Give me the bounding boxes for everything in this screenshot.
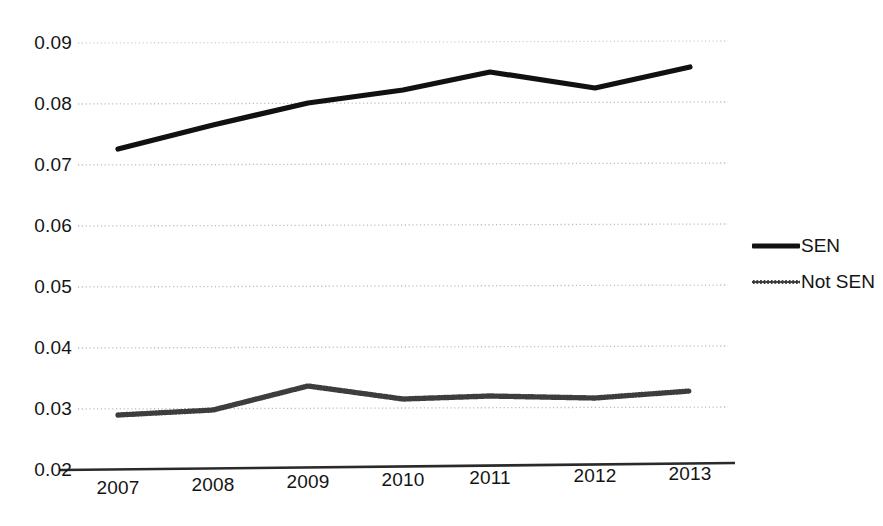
- x-tick-label-2007: 2007: [78, 477, 158, 499]
- gridline-0.09: [78, 41, 728, 43]
- gridline-0.03: [78, 407, 728, 409]
- y-tick-label-0.06: 0.06: [0, 215, 72, 237]
- legend-entry-sen: SEN: [752, 228, 882, 264]
- legend-entry-not-sen: Not SEN: [752, 264, 882, 300]
- x-tick-label-2008: 2008: [173, 474, 253, 496]
- gridline-0.07: [78, 163, 728, 165]
- legend-label-not-sen: Not SEN: [800, 271, 875, 293]
- y-tick-label-0.08: 0.08: [0, 93, 72, 115]
- series-line-sen: [118, 67, 690, 149]
- chart-plot-area: [0, 0, 883, 526]
- x-tick-label-2012: 2012: [555, 465, 635, 487]
- dotted-line-swatch-icon: [752, 275, 800, 289]
- y-tick-label-0.02: 0.02: [0, 459, 72, 481]
- legend-label-sen: SEN: [800, 235, 840, 257]
- x-tick-label-2009: 2009: [268, 471, 348, 493]
- line-chart: 0.09 0.08 0.07 0.06 0.05 0.04 0.03 0.02 …: [0, 0, 883, 526]
- gridline-0.04: [78, 346, 728, 348]
- y-tick-label-0.03: 0.03: [0, 398, 72, 420]
- solid-line-swatch-icon: [752, 239, 800, 253]
- gridline-0.06: [78, 224, 728, 226]
- gridlines: [78, 41, 728, 409]
- gridline-0.08: [78, 102, 728, 104]
- x-tick-label-2010: 2010: [363, 469, 443, 491]
- y-tick-label-0.04: 0.04: [0, 337, 72, 359]
- gridline-0.05: [78, 285, 728, 287]
- chart-legend: SEN Not SEN: [752, 228, 882, 300]
- y-tick-label-0.07: 0.07: [0, 154, 72, 176]
- y-tick-label-0.09: 0.09: [0, 32, 72, 54]
- y-tick-label-0.05: 0.05: [0, 276, 72, 298]
- x-tick-label-2013: 2013: [650, 463, 730, 485]
- series-line-not-sen: [118, 386, 690, 415]
- x-tick-label-2011: 2011: [450, 467, 530, 489]
